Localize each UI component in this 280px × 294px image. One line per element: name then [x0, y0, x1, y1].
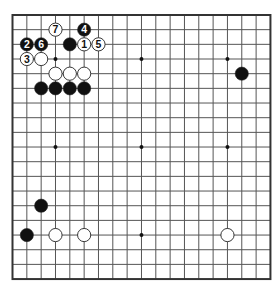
move-number: 4: [81, 23, 87, 35]
white-stone-5: 5: [92, 38, 105, 51]
white-stone-7: 7: [49, 23, 62, 36]
star-point: [139, 57, 143, 61]
stone-disc: [49, 228, 62, 241]
move-number: 1: [81, 38, 87, 50]
stone-disc: [63, 82, 76, 95]
black-stone: [35, 82, 48, 95]
stone-disc: [20, 228, 33, 241]
white-stone: [78, 228, 91, 241]
star-point: [139, 145, 143, 149]
black-stone: [235, 67, 248, 80]
star-point: [225, 145, 229, 149]
stone-disc: [35, 82, 48, 95]
white-stone: [63, 67, 76, 80]
stone-disc: [78, 82, 91, 95]
go-board: 1234567: [0, 0, 280, 294]
black-stone: [63, 82, 76, 95]
white-stone: [221, 228, 234, 241]
star-point: [53, 145, 57, 149]
move-number: 6: [38, 38, 44, 50]
stone-disc: [63, 67, 76, 80]
black-stone-6: 6: [35, 38, 48, 51]
white-stone: [49, 67, 62, 80]
star-point: [225, 57, 229, 61]
black-stone: [49, 82, 62, 95]
stone-disc: [221, 228, 234, 241]
black-stone: [20, 228, 33, 241]
white-stone: [78, 67, 91, 80]
stone-disc: [49, 67, 62, 80]
move-number: 5: [96, 38, 102, 50]
stone-disc: [235, 67, 248, 80]
black-stone: [35, 199, 48, 212]
stone-disc: [78, 67, 91, 80]
star-point: [53, 57, 57, 61]
black-stone-2: 2: [20, 38, 33, 51]
stone-disc: [49, 82, 62, 95]
move-number: 7: [53, 23, 59, 35]
move-number: 2: [24, 38, 30, 50]
stone-disc: [35, 52, 48, 65]
black-stone: [78, 82, 91, 95]
black-stone-4: 4: [78, 23, 91, 36]
stone-disc: [63, 38, 76, 51]
white-stone: [35, 52, 48, 65]
stone-disc: [78, 228, 91, 241]
move-number: 3: [24, 53, 30, 65]
white-stone-1: 1: [78, 38, 91, 51]
white-stone: [49, 228, 62, 241]
black-stone: [63, 38, 76, 51]
white-stone-3: 3: [20, 52, 33, 65]
star-point: [139, 233, 143, 237]
stone-disc: [35, 199, 48, 212]
